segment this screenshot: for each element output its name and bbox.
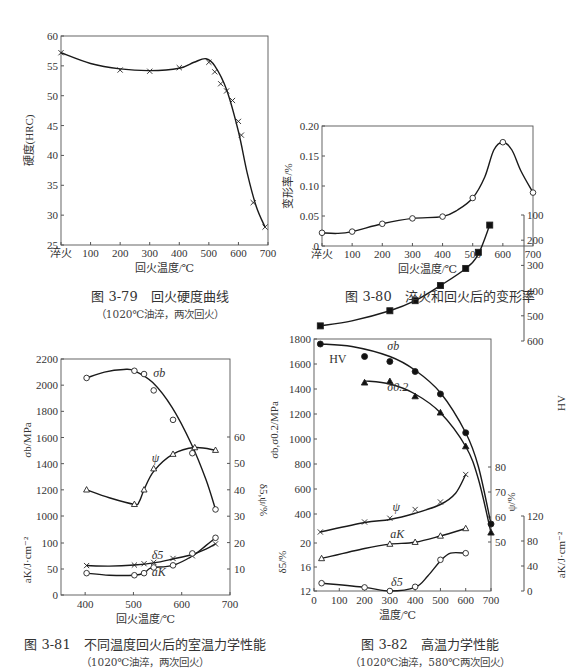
- triangle-marker: [84, 487, 90, 492]
- deformation-curve: [322, 142, 533, 233]
- y-tick-label: 45: [47, 120, 59, 132]
- y-axis-title-psi: ψ/%: [505, 492, 517, 511]
- right-tick-label: 30: [234, 510, 246, 522]
- circle-marker: [170, 417, 176, 423]
- hv-tick-label: 600: [527, 335, 544, 347]
- y-tick-label: 1800: [289, 333, 312, 345]
- circle-marker: [190, 551, 196, 557]
- fig82-note: （1020℃油淬，580℃两次回火）: [300, 654, 560, 669]
- series-label: δ5: [391, 575, 403, 589]
- circle-marker: [132, 572, 138, 578]
- x-tick-label: 600: [495, 248, 512, 260]
- x-marker: [463, 472, 468, 477]
- circle-marker: [319, 580, 325, 586]
- chart-tempering-hardness: 2530354045505560淬火100200300400500600700回…: [22, 30, 277, 274]
- x-tick-label: 500: [125, 598, 142, 610]
- circle-marker: [141, 371, 147, 377]
- filled-square-marker: [463, 265, 469, 271]
- circle-marker: [319, 230, 325, 236]
- circle-marker: [362, 585, 368, 591]
- x-marker: [262, 224, 267, 229]
- y-tick-label: 50: [47, 90, 59, 102]
- y-tick-label: 0.20: [300, 120, 320, 132]
- circle-marker: [530, 190, 536, 196]
- ak-tick-label: 80: [527, 535, 539, 547]
- y-tick-label: 1600: [36, 432, 59, 444]
- circle-marker: [438, 557, 444, 563]
- y-tick-label: 30: [47, 209, 59, 221]
- psi-tick-label: 60: [495, 511, 507, 523]
- circle-marker: [470, 195, 476, 201]
- circle-marker: [84, 375, 90, 381]
- x-marker: [218, 81, 223, 86]
- y-tick-label: 0.10: [300, 180, 320, 192]
- circle-marker: [412, 584, 418, 590]
- series-label: σb: [387, 339, 399, 353]
- hardness-curve: [61, 53, 265, 227]
- x-tick-label: 300: [404, 248, 421, 260]
- right-tick-label: 10: [234, 563, 246, 575]
- right-tick-label: 60: [234, 431, 246, 443]
- y-axis-title: 变形率/%: [281, 163, 294, 208]
- series-label: ψ: [392, 500, 400, 514]
- x-tick-label: 淬火: [311, 247, 333, 260]
- figure-canvas: 2530354045505560淬火100200300400500600700回…: [0, 0, 576, 672]
- filled-circle-marker: [437, 391, 443, 397]
- y-tick-label: 1400: [289, 383, 312, 395]
- y-tick-label: 2000: [36, 379, 59, 391]
- y-tick-label: 50: [47, 563, 59, 575]
- y-tick-label: 60: [47, 30, 59, 42]
- y-tick-label: 800: [295, 458, 312, 470]
- y-axis-title-hv: HV: [555, 395, 567, 411]
- x-axis-title: 回火温度/℃: [135, 261, 194, 274]
- series-label: aK: [390, 527, 405, 541]
- triangle-marker: [463, 525, 469, 530]
- right-tick-label: 50: [234, 457, 246, 469]
- filled-triangle-marker: [361, 379, 367, 385]
- x-tick-label: 200: [356, 594, 373, 606]
- x-tick-label: 700: [525, 248, 542, 260]
- x-tick-label: 300: [382, 594, 399, 606]
- circle-marker: [132, 368, 138, 374]
- psi-tick-label: 50: [495, 536, 507, 548]
- filled-circle-marker: [463, 430, 469, 436]
- series-label: HV: [329, 352, 347, 366]
- circle-marker: [170, 563, 176, 569]
- y-tick-label: 1400: [36, 458, 59, 470]
- y-tick-label: 35: [47, 179, 59, 191]
- x-tick-label: 500: [432, 594, 449, 606]
- filled-circle-marker: [317, 341, 323, 347]
- hv-tick-label: 100: [527, 209, 544, 221]
- series-label: σ0.2: [387, 380, 408, 394]
- y-tick-label: 16: [300, 561, 312, 573]
- y-tick-label: 55: [47, 60, 59, 72]
- x-axis-title: 温度/℃: [379, 608, 416, 621]
- y-tick-label: 2200: [36, 353, 59, 365]
- psi-tick-label: 80: [495, 461, 507, 473]
- x-tick-label: 400: [407, 594, 424, 606]
- y-axis-title-delta: δ5/%: [276, 551, 288, 574]
- circle-marker: [387, 588, 393, 594]
- series-label: δ5: [152, 548, 164, 562]
- x-tick-label: 100: [82, 247, 99, 259]
- circle-marker: [151, 388, 157, 394]
- fig81-caption: 图 3-81 不同温度回火后的室温力学性能: [10, 634, 280, 653]
- filled-square-marker: [475, 249, 481, 255]
- right-tick-label: 20: [234, 537, 246, 549]
- x-tick-label: 淬火: [50, 246, 72, 259]
- y-tick-label: 1200: [36, 484, 59, 496]
- filled-square-marker: [487, 222, 493, 228]
- filled-circle-marker: [412, 369, 418, 375]
- y-tick-label: 1000: [289, 433, 312, 445]
- y-axis-title-ak: aK/J·cm⁻²: [555, 531, 567, 578]
- hv-tick-label: 200: [527, 234, 544, 246]
- x-tick-label: 700: [260, 247, 277, 259]
- right-tick-label: 40: [234, 484, 246, 496]
- circle-marker: [440, 214, 446, 220]
- x-tick-label: 200: [112, 247, 129, 259]
- circle-marker: [213, 507, 219, 513]
- series-label: ψ: [152, 451, 160, 465]
- x-tick-label: 100: [344, 248, 361, 260]
- y-tick-label: 400: [295, 508, 312, 520]
- circle-marker: [410, 216, 416, 222]
